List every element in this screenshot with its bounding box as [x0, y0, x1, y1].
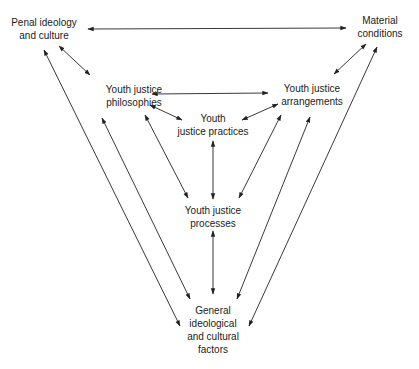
node-label-line: Penal ideology — [11, 16, 77, 29]
node-label-line: factors — [187, 343, 239, 356]
node-label-line: philosophies — [106, 96, 162, 109]
node-label-line: General — [187, 304, 239, 317]
node-label-line: Youth justice — [185, 204, 241, 217]
node-youth-justice-arrangements: Youth justicearrangements — [281, 82, 343, 108]
double-arrow-philosophies-arrangements — [152, 93, 268, 94]
youth-justice-diagram: Penal ideologyand culture Materialcondit… — [0, 0, 419, 369]
node-label-line: Youth justice — [106, 83, 162, 96]
double-arrow-penal-philosophies — [59, 46, 90, 75]
node-youth-justice-philosophies: Youth justicephilosophies — [106, 83, 162, 109]
node-label-line: and culture — [11, 29, 77, 42]
node-label-line: and cultural — [187, 330, 239, 343]
node-label-line: Youth justice — [281, 82, 343, 95]
node-label-line: processes — [185, 217, 241, 230]
node-material-conditions: Materialconditions — [357, 14, 402, 40]
double-arrow-material-arrangements — [334, 44, 366, 74]
node-youth-justice-practices: Youthjustice practices — [177, 112, 248, 138]
node-label-line: ideological — [187, 317, 239, 330]
node-label-line: justice practices — [177, 125, 248, 138]
double-arrow-philosophies-general — [102, 118, 190, 299]
node-general-ideological-factors: Generalideologicaland culturalfactors — [187, 304, 239, 356]
node-label-line: arrangements — [281, 95, 343, 108]
double-arrow-penal-material — [88, 28, 346, 29]
node-label-line: Youth — [177, 112, 248, 125]
node-penal-ideology: Penal ideologyand culture — [11, 16, 77, 42]
node-label-line: Material — [357, 14, 402, 27]
node-youth-justice-processes: Youth justiceprocesses — [185, 204, 241, 230]
node-label-line: conditions — [357, 27, 402, 40]
